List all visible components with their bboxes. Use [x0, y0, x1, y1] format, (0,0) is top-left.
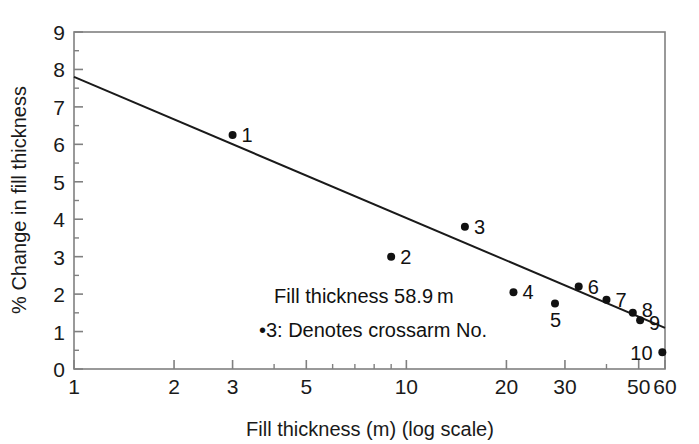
- y-tick-label: 1: [53, 321, 65, 344]
- y-tick-label: 6: [53, 133, 65, 156]
- y-tick-label: 2: [53, 283, 65, 306]
- x-tick-label: 1: [68, 375, 80, 398]
- data-point-marker: [602, 296, 610, 304]
- data-point-marker: [658, 348, 666, 356]
- x-tick-label: 2: [168, 375, 180, 398]
- data-point-marker: [629, 309, 637, 317]
- chart-background: [0, 0, 699, 444]
- data-point-label: 9: [649, 312, 660, 334]
- data-point-marker: [509, 288, 517, 296]
- data-point-label: 1: [242, 124, 253, 146]
- y-tick-label: 9: [53, 21, 65, 44]
- x-tick-label: 5: [300, 375, 312, 398]
- data-point-marker: [461, 223, 469, 231]
- data-point-label: 5: [550, 309, 561, 331]
- y-tick-label: 8: [53, 58, 65, 81]
- data-point-label: 2: [400, 246, 411, 268]
- data-point-marker: [575, 283, 583, 291]
- y-tick-label: 0: [53, 358, 65, 381]
- data-point-label: 3: [474, 216, 485, 238]
- y-tick-label: 5: [53, 171, 65, 194]
- annotation-text: •3: Denotes crossarm No.: [259, 319, 487, 341]
- x-tick-label: 30: [553, 375, 576, 398]
- y-tick-label: 4: [53, 208, 65, 231]
- x-axis-title: Fill thickness (m) (log scale): [246, 418, 494, 440]
- data-point-marker: [229, 131, 237, 139]
- chart-figure: 12351020305060 0123456789 12345678910 Fi…: [0, 0, 699, 444]
- x-tick-label: 20: [495, 375, 518, 398]
- data-point-label: 4: [522, 281, 533, 303]
- data-point-marker: [551, 299, 559, 307]
- y-tick-label: 3: [53, 246, 65, 269]
- y-axis-title: % Change in fill thickness: [8, 86, 30, 314]
- data-point-marker: [636, 316, 644, 324]
- data-point-label: 6: [588, 276, 599, 298]
- annotation-text: Fill thickness 58.9 m: [274, 285, 454, 307]
- x-tick-label: 50: [627, 375, 650, 398]
- data-point-marker: [387, 253, 395, 261]
- y-tick-label: 7: [53, 96, 65, 119]
- x-tick-label: 10: [395, 375, 418, 398]
- x-tick-label: 60: [653, 375, 676, 398]
- data-point-label: 10: [630, 342, 652, 364]
- data-point-label: 7: [615, 289, 626, 311]
- x-tick-label: 3: [227, 375, 239, 398]
- chart-canvas: 12351020305060 0123456789 12345678910 Fi…: [0, 0, 699, 444]
